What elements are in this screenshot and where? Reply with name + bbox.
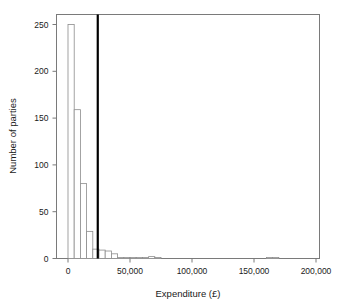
x-tick-label: 50,000	[117, 266, 143, 276]
histogram-bar	[80, 184, 86, 259]
histogram-bar	[118, 258, 124, 259]
y-tick-label: 200	[34, 66, 48, 76]
histogram-bar	[74, 110, 80, 259]
x-tick-label: 150,000	[239, 266, 270, 276]
x-tick-label: 200,000	[301, 266, 332, 276]
histogram-bar	[273, 258, 279, 259]
chart-canvas: 050100150200250 050,000100,000150,000200…	[0, 0, 338, 308]
x-axis-label: Expenditure (£)	[156, 288, 221, 299]
y-axis-ticks: 050100150200250	[34, 20, 56, 264]
histogram-bar	[136, 258, 142, 259]
x-tick-label: 0	[66, 266, 71, 276]
histogram-bar	[149, 257, 155, 259]
histogram-bar	[124, 258, 130, 259]
histogram-figure: 050100150200250 050,000100,000150,000200…	[0, 0, 338, 308]
histogram-bar	[130, 258, 136, 259]
histogram-bar	[155, 258, 161, 259]
y-axis-label: Number of parties	[7, 98, 18, 174]
x-tick-label: 100,000	[177, 266, 208, 276]
y-tick-label: 100	[34, 160, 48, 170]
x-axis-ticks: 050,000100,000150,000200,000	[66, 259, 332, 276]
histogram-bar	[87, 231, 93, 258]
histogram-bar	[111, 254, 117, 259]
histogram-bar	[105, 251, 111, 258]
y-tick-label: 150	[34, 113, 48, 123]
histogram-bar	[68, 25, 74, 259]
y-tick-label: 250	[34, 20, 48, 30]
y-tick-label: 0	[44, 254, 49, 264]
histogram-bar	[142, 258, 148, 259]
plot-frame	[57, 15, 320, 259]
histogram-bar	[266, 258, 272, 259]
y-tick-label: 50	[39, 207, 49, 217]
histogram-bar	[99, 250, 105, 258]
